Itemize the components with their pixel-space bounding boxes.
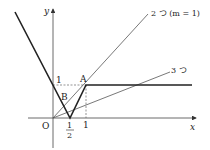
- line-two-label: 2 つ (m = 1): [151, 9, 200, 18]
- line-three-intersections: [53, 72, 170, 118]
- tick-x-one: 1: [83, 120, 89, 130]
- point-a-label: A: [79, 74, 87, 84]
- line-three-label: 3 つ: [171, 66, 187, 75]
- y-axis-label: y: [43, 6, 50, 16]
- x-axis-label: x: [190, 122, 195, 132]
- origin-label: O: [42, 121, 49, 131]
- graph-canvas: y x O 1 1 2 1 A B 2 つ (m = 1) 3 つ: [0, 0, 210, 150]
- tick-y-one: 1: [56, 75, 62, 85]
- tick-x-half-denominator: 2: [67, 131, 72, 140]
- tick-x-half-numerator: 1: [67, 121, 72, 130]
- function-graph: [15, 12, 192, 118]
- point-b-label: B: [61, 92, 68, 102]
- line-two-intersections: [53, 14, 148, 118]
